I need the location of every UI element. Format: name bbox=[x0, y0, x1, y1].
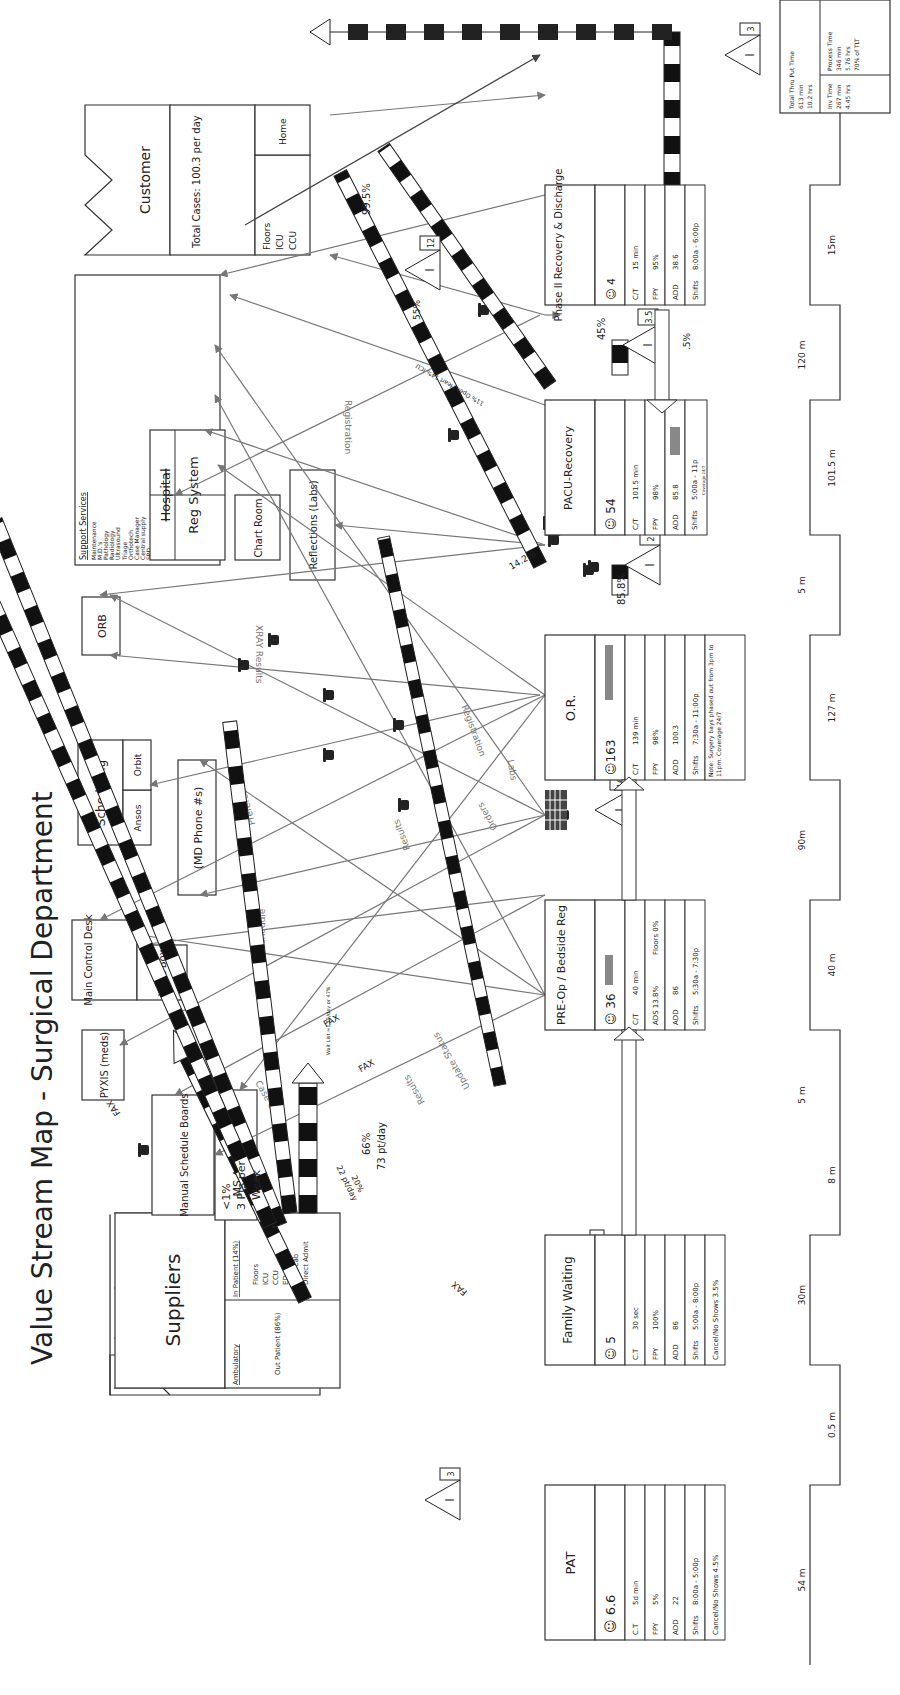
process-name: Family Waiting bbox=[561, 1256, 575, 1343]
orb-box: ORB bbox=[82, 597, 120, 655]
svg-text:I: I bbox=[743, 53, 757, 57]
svg-text:ADD: ADD bbox=[672, 759, 680, 775]
customer-destination: CCU bbox=[288, 231, 298, 250]
svg-text:FPY: FPY bbox=[652, 762, 660, 775]
svg-text:Shifts: Shifts bbox=[692, 280, 700, 300]
family-pct-label: 66% bbox=[361, 1133, 372, 1155]
svg-text:86: 86 bbox=[672, 986, 680, 995]
phone-icon bbox=[238, 658, 249, 672]
svg-text:38.6: 38.6 bbox=[672, 254, 680, 270]
inventory-value: 2 bbox=[647, 536, 656, 541]
process-phase-ii: Phase II Recovery & Discharge ☺ 4 C/T15 … bbox=[545, 169, 705, 322]
coverage-label: Coverage 24/7 bbox=[701, 465, 706, 495]
timeline-wait: 5 m bbox=[797, 576, 807, 593]
update-status-label: Update Status bbox=[431, 1031, 472, 1092]
inpatient-item: Direct Admit bbox=[302, 1241, 310, 1285]
svg-text:Shifts: Shifts bbox=[692, 1340, 700, 1360]
suppliers: Suppliers Ambulatory Out Patient (86%) I… bbox=[115, 1213, 340, 1388]
orbit-label: Orbit bbox=[133, 753, 143, 776]
svg-text:40 min: 40 min bbox=[632, 971, 640, 995]
svg-text:ADD: ADD bbox=[672, 514, 680, 530]
phone-icon bbox=[323, 748, 334, 762]
phone-icon bbox=[448, 428, 459, 442]
labs-label: Labs bbox=[505, 759, 519, 782]
svg-text:FPY: FPY bbox=[652, 517, 660, 530]
fax-label: FAX bbox=[357, 1057, 376, 1074]
timeline-process: 40 m bbox=[827, 953, 837, 976]
registration-label: Registration bbox=[343, 400, 353, 454]
svg-text:15 min: 15 min bbox=[632, 246, 640, 270]
pyxis-box: PYXIS (meds) bbox=[82, 1030, 124, 1100]
operator-count: ☺ 6.6 bbox=[603, 1595, 618, 1633]
svg-text:I: I bbox=[443, 1498, 457, 1502]
or-note: Note: Surgery bays phased out from 3pm t… bbox=[707, 637, 723, 777]
timeline-wait: 5 m bbox=[797, 1086, 807, 1103]
or-to-pacu-label: 85.8% bbox=[616, 573, 627, 605]
svg-text:Shifts: Shifts bbox=[692, 1005, 700, 1025]
week-unit-label: Week bbox=[250, 1169, 263, 1200]
proc-label: Process Time bbox=[826, 31, 833, 71]
inventory-final: I3 bbox=[725, 23, 760, 75]
svg-text:Shifts: Shifts bbox=[691, 510, 699, 530]
pacu-55-label: 55% bbox=[412, 300, 422, 320]
svg-text:Shifts: Shifts bbox=[692, 755, 700, 775]
reflections-box: Reflections (Labs) bbox=[290, 470, 335, 580]
svg-text:98%: 98% bbox=[652, 484, 660, 500]
svg-text:22: 22 bbox=[672, 1596, 680, 1605]
total-min: 613 min bbox=[797, 84, 804, 109]
proc-pct: 70% of TLT bbox=[853, 38, 860, 71]
proc-hrs: 5.76 hrs bbox=[844, 46, 851, 71]
main-control-desk-label: Main Control Desk bbox=[83, 914, 94, 1005]
customer: Customer Total Cases: 100.3 per day Floo… bbox=[85, 105, 310, 255]
svg-text:I: I bbox=[643, 563, 657, 567]
md-phone-label: (MD Phone #s) bbox=[192, 787, 205, 870]
svg-text:5:00a - 11p: 5:00a - 11p bbox=[691, 459, 699, 500]
inventory-value: 3 bbox=[747, 26, 756, 31]
total-hrs: 10.2 hrs bbox=[806, 84, 813, 109]
cancel-no-shows: Cancel/No Shows 3.5% bbox=[712, 1279, 720, 1360]
process-family-waiting: Family Waiting ☺ 5 C.T30 sec FPY100% ADD… bbox=[545, 1235, 725, 1365]
svg-text:ADD: ADD bbox=[672, 284, 680, 300]
inpatient-item: Floors bbox=[252, 1264, 260, 1285]
inventory-value: 12 bbox=[427, 238, 436, 248]
process-or: O.R. ☺163 C/T139 min FPY98% ADD100.3 Shi… bbox=[545, 635, 745, 780]
svg-text:I: I bbox=[423, 268, 437, 272]
value-stream-map: Value Stream Map - Surgical Department S… bbox=[0, 0, 900, 1695]
svg-text:C.T: C.T bbox=[632, 1348, 640, 1360]
customer-home: Home bbox=[278, 118, 288, 145]
orders-label: Orders bbox=[475, 801, 499, 832]
svg-text:C/T: C/T bbox=[632, 763, 640, 775]
phone-icon bbox=[583, 563, 594, 577]
timeline-process: 8 m bbox=[827, 1166, 837, 1183]
svg-text:85.8: 85.8 bbox=[672, 484, 680, 500]
timeline: 54 m 0.5 m 30m 8 m 5 m 40 m 90m 127 m 5 … bbox=[797, 5, 840, 1665]
process-name: PAT bbox=[563, 1552, 578, 1575]
operator-count: ☺163 bbox=[604, 740, 618, 775]
chart-room-box: Chart Room bbox=[235, 495, 280, 560]
phone-icon bbox=[323, 688, 334, 702]
process-pre-op: PRE-Op / Bedside Reg ☺ 36 C/T40 min ADS … bbox=[545, 900, 705, 1030]
support-services-header: Support Services bbox=[79, 492, 88, 560]
inv-label: Inv Time bbox=[826, 83, 833, 109]
svg-text:FPY: FPY bbox=[652, 287, 660, 300]
fax-label: FAX bbox=[105, 1098, 123, 1117]
inpatient-item: ICU bbox=[262, 1273, 270, 1285]
svg-text:I: I bbox=[641, 343, 655, 347]
ambulatory-header: Ambulatory bbox=[232, 1344, 240, 1385]
svg-text:101.5 min: 101.5 min bbox=[632, 465, 640, 500]
svg-text:100%: 100% bbox=[652, 1310, 660, 1330]
xray-results-label: XRAY Results bbox=[254, 625, 264, 684]
chart-room-label: Chart Room bbox=[253, 498, 264, 557]
proc-min: 346 min bbox=[835, 46, 842, 71]
hospital-reg-system-box: Hospital Reg System bbox=[150, 430, 225, 560]
timeline-wait: 120 m bbox=[797, 341, 807, 370]
process-name: PRE-Op / Bedside Reg bbox=[555, 905, 568, 1025]
reg-system-label: Reg System bbox=[186, 456, 201, 533]
week-pct-label: <1% bbox=[220, 1183, 233, 1210]
timeline-process: 0.5 m bbox=[827, 1412, 837, 1438]
family-rate-label: 73 pt/day bbox=[376, 1122, 387, 1170]
svg-text:C.T: C.T bbox=[632, 1623, 640, 1635]
pacu-5-label: .5% bbox=[682, 332, 692, 350]
timeline-wait: 90m bbox=[797, 830, 807, 850]
timeline-wait: 54 m bbox=[797, 1568, 807, 1591]
